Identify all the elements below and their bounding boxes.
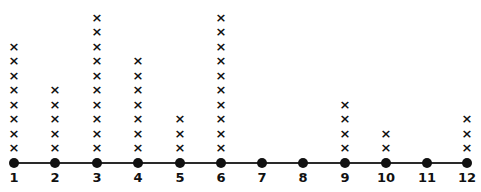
tick-dot-9 [340,158,350,168]
tick-label-8: 8 [288,170,318,185]
x-mark-icon: × [215,99,227,111]
tick-dot-4 [133,158,143,168]
x-mark-icon: × [215,128,227,140]
x-mark-icon: × [215,142,227,154]
line-plot: 1××××××××2×××××3××××××××××4×××××××5×××6×… [0,0,481,192]
tick-dot-6 [216,158,226,168]
x-mark-icon: × [174,142,186,154]
x-mark-icon: × [215,84,227,96]
x-mark-icon: × [461,113,473,125]
x-mark-icon: × [380,128,392,140]
x-mark-icon: × [174,113,186,125]
tick-label-3: 3 [82,170,112,185]
x-mark-icon: × [380,142,392,154]
x-mark-icon: × [215,55,227,67]
x-mark-icon: × [339,99,351,111]
x-mark-icon: × [339,128,351,140]
x-mark-icon: × [8,142,20,154]
tick-dot-11 [422,158,432,168]
tick-dot-7 [257,158,267,168]
x-mark-icon: × [49,99,61,111]
x-mark-icon: × [91,70,103,82]
tick-label-9: 9 [330,170,360,185]
tick-dot-2 [50,158,60,168]
x-mark-icon: × [132,128,144,140]
tick-dot-8 [298,158,308,168]
x-mark-icon: × [91,12,103,24]
x-mark-icon: × [215,12,227,24]
tick-dot-1 [9,158,19,168]
tick-label-11: 11 [412,170,442,185]
x-mark-icon: × [132,84,144,96]
tick-label-5: 5 [165,170,195,185]
x-mark-icon: × [8,113,20,125]
x-mark-icon: × [132,113,144,125]
x-mark-icon: × [174,128,186,140]
x-mark-icon: × [215,113,227,125]
x-mark-icon: × [91,99,103,111]
tick-label-10: 10 [371,170,401,185]
x-mark-icon: × [215,26,227,38]
tick-label-2: 2 [40,170,70,185]
x-mark-icon: × [339,142,351,154]
x-mark-icon: × [461,128,473,140]
tick-label-7: 7 [247,170,277,185]
x-mark-icon: × [132,99,144,111]
x-mark-icon: × [8,55,20,67]
x-mark-icon: × [91,55,103,67]
x-mark-icon: × [49,84,61,96]
tick-dot-3 [92,158,102,168]
x-mark-icon: × [91,128,103,140]
x-mark-icon: × [91,26,103,38]
tick-label-4: 4 [123,170,153,185]
x-mark-icon: × [91,142,103,154]
x-mark-icon: × [49,128,61,140]
x-mark-icon: × [215,70,227,82]
number-line [12,162,470,164]
x-mark-icon: × [132,142,144,154]
x-mark-icon: × [91,41,103,53]
x-mark-icon: × [339,113,351,125]
x-mark-icon: × [8,99,20,111]
x-mark-icon: × [8,128,20,140]
x-mark-icon: × [215,41,227,53]
x-mark-icon: × [8,84,20,96]
x-mark-icon: × [49,142,61,154]
x-mark-icon: × [8,70,20,82]
x-mark-icon: × [132,70,144,82]
x-mark-icon: × [132,55,144,67]
tick-dot-10 [381,158,391,168]
x-mark-icon: × [49,113,61,125]
tick-label-6: 6 [206,170,236,185]
x-mark-icon: × [91,113,103,125]
x-mark-icon: × [91,84,103,96]
x-mark-icon: × [8,41,20,53]
tick-dot-5 [175,158,185,168]
tick-label-1: 1 [0,170,29,185]
tick-label-12: 12 [452,170,481,185]
x-mark-icon: × [461,142,473,154]
tick-dot-12 [462,158,472,168]
